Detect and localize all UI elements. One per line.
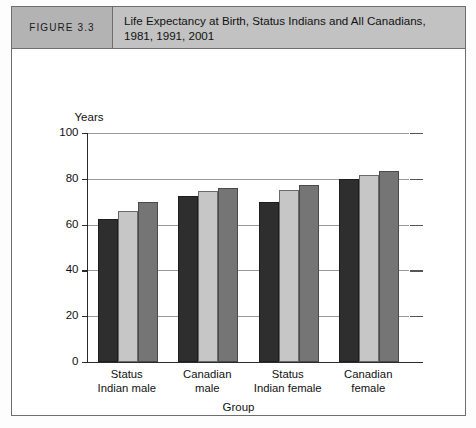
bar-1981-canadian-female (339, 179, 359, 362)
bar-1981-status-indian-male (98, 219, 118, 362)
y-tick-label: 60 (45, 218, 79, 230)
bar-1991-status-indian-male (118, 211, 138, 362)
bar-group (259, 133, 326, 362)
y-tick-label: 0 (45, 355, 79, 367)
right-tick-mark (410, 133, 423, 134)
bar-1991-status-indian-female (279, 190, 299, 362)
figure-number-box: FIGURE 3.3 (12, 7, 113, 48)
bar-groups (87, 133, 409, 362)
bar-2001-status-indian-female (299, 185, 319, 362)
bar-1991-canadian-female (359, 175, 379, 362)
figure-title-text: Life Expectancy at Birth, Status Indians… (124, 13, 454, 43)
bar-group (339, 133, 406, 362)
right-tick-mark (410, 179, 423, 180)
bar-1981-canadian-male (178, 196, 198, 362)
bar-group (178, 133, 245, 362)
x-category-label: Canadianfemale (314, 367, 422, 395)
y-axis-title: Years (75, 111, 104, 123)
bar-1981-status-indian-female (259, 202, 279, 362)
y-tick-label: 40 (45, 263, 79, 275)
y-tick-label: 100 (45, 126, 79, 138)
bar-2001-canadian-male (218, 188, 238, 362)
bar-1991-canadian-male (198, 191, 218, 362)
figure-number-label: FIGURE 3.3 (29, 22, 94, 33)
y-tick-label: 20 (45, 309, 79, 321)
bar-2001-canadian-female (379, 171, 399, 362)
chart-canvas: Years 020406080100 StatusIndian maleCana… (13, 49, 465, 415)
right-tick-mark (410, 225, 423, 226)
figure-page: FIGURE 3.3 Life Expectancy at Birth, Sta… (0, 0, 476, 428)
figure-header: FIGURE 3.3 Life Expectancy at Birth, Sta… (11, 6, 466, 49)
x-axis-line (87, 362, 423, 363)
x-category-label-line: Canadian (314, 367, 422, 381)
y-tick-label: 80 (45, 172, 79, 184)
bar-2001-status-indian-male (138, 202, 158, 362)
bar-group (98, 133, 165, 362)
figure-title-box: Life Expectancy at Birth, Status Indians… (113, 7, 465, 48)
x-category-label-line: female (314, 381, 422, 395)
x-axis-title: Group (13, 401, 465, 413)
right-tick-mark (410, 270, 423, 271)
right-tick-mark (410, 316, 423, 317)
